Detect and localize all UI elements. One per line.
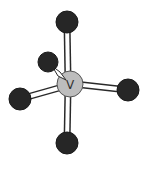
ligand-atom-top: [56, 11, 78, 33]
ligand-atom-upper-left: [38, 52, 58, 72]
ligand-atom-left: [9, 88, 31, 110]
central-atom-label: V: [66, 78, 75, 92]
molecule-diagram: V: [0, 0, 155, 169]
ligand-atom-bottom: [56, 132, 78, 154]
ligand-atom-right: [117, 79, 139, 101]
